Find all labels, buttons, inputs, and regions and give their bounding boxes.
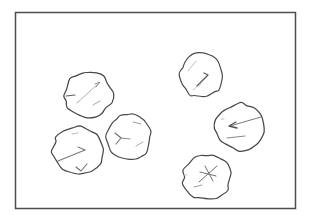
blob-top-right-outline	[179, 53, 222, 97]
blob-right-middle	[214, 102, 264, 151]
blob-center-outline	[106, 114, 151, 160]
blob-top-left	[64, 72, 114, 118]
blob-left-middle	[51, 126, 103, 174]
blob-bottom-right	[182, 155, 231, 199]
blob-right-middle-outline	[214, 102, 264, 151]
sketch-figure	[0, 0, 311, 218]
blob-top-right	[179, 53, 222, 97]
blob-bottom-right-outline	[182, 155, 231, 199]
blob-center	[106, 114, 151, 160]
sketch-canvas	[0, 0, 311, 218]
